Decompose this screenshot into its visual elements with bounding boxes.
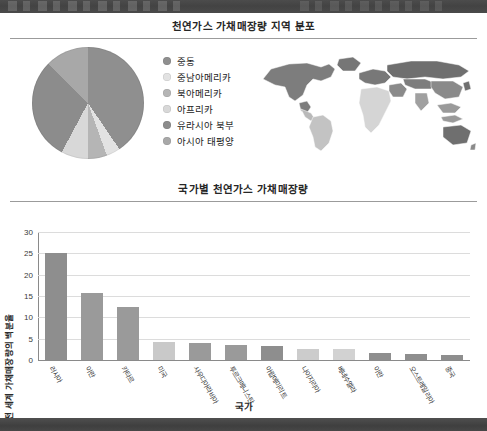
- legend-item-africa: 아프리카: [163, 101, 234, 117]
- x-tick-label: 아랍에미리트: [263, 364, 289, 400]
- bar-chart: 전 세계 가채매장량의 백분율 30 25 20 15 10: [0, 202, 487, 417]
- legend-swatch-icon: [163, 89, 171, 97]
- legend-label: 중동: [177, 54, 195, 68]
- y-tick-label: 10: [24, 313, 33, 322]
- legend-label: 아프리카: [177, 102, 213, 116]
- pie-chart: [32, 47, 144, 159]
- y-tick-label: 30: [24, 228, 33, 237]
- x-tick-label: 이란: [371, 364, 386, 379]
- legend-swatch-icon: [163, 57, 171, 65]
- bar: [261, 346, 283, 361]
- bar-slot: [290, 232, 326, 360]
- bar-slot: [146, 232, 182, 360]
- y-tick-label: 5: [29, 334, 33, 343]
- world-map-icon: [255, 51, 477, 155]
- page-footer-band: [0, 418, 487, 431]
- page-root: 천연가스 가채매장량 지역 분포 중동 중남아메리카 북아메리카: [0, 0, 487, 431]
- x-tick-label: 카타르: [119, 364, 137, 384]
- bar-slot: [326, 232, 362, 360]
- legend-item-northern-eurasia: 유라시아 북부: [163, 117, 234, 133]
- bar: [45, 253, 67, 360]
- figure-regional-distribution: 천연가스 가채매장량 지역 분포 중동 중남아메리카 북아메리카: [0, 13, 487, 176]
- bar: [333, 349, 355, 360]
- page-header-band: [0, 0, 487, 13]
- bar-slot: [434, 232, 470, 360]
- y-tick-label: 20: [24, 270, 33, 279]
- bar-series: [38, 232, 470, 360]
- bar: [369, 353, 391, 360]
- bar-slot: [38, 232, 74, 360]
- x-tick-label: 베네수엘라: [335, 364, 358, 395]
- legend-label: 유라시아 북부: [177, 118, 234, 132]
- y-tick-label: 0: [29, 356, 33, 365]
- bar: [441, 355, 463, 360]
- bar: [297, 349, 319, 360]
- pie-legend: 중동 중남아메리카 북아메리카 아프리카 유라시아 북부: [163, 53, 234, 149]
- bar-slot: [362, 232, 398, 360]
- x-tick-label: 이란: [83, 364, 98, 379]
- pie-slices: [32, 47, 144, 159]
- y-tick-label: 25: [24, 249, 33, 258]
- bar: [117, 307, 139, 360]
- bar-slot: [398, 232, 434, 360]
- x-tick-label: 러시아: [47, 364, 65, 384]
- bar: [225, 345, 247, 360]
- legend-label: 북아메리카: [177, 86, 222, 100]
- legend-item-central-south-america: 중남아메리카: [163, 69, 234, 85]
- bar-slot: [182, 232, 218, 360]
- header-ghost-text-right: [300, 1, 450, 11]
- legend-label: 중남아메리카: [177, 70, 231, 84]
- bar-slot: [110, 232, 146, 360]
- legend-swatch-icon: [163, 137, 171, 145]
- header-ghost-text-left: [8, 1, 188, 11]
- bar-slot: [74, 232, 110, 360]
- figure-bar-title: 국가별 천연가스 가채매장량: [0, 176, 487, 196]
- plot-area: 30 25 20 15 10 5 0: [38, 232, 470, 360]
- x-tick-label: 나이지리아: [299, 364, 322, 395]
- bar-slot: [218, 232, 254, 360]
- legend-item-asia-pacific: 아시아 태평양: [163, 133, 234, 149]
- bar: [153, 342, 175, 360]
- legend-swatch-icon: [163, 105, 171, 113]
- bar: [405, 354, 427, 360]
- legend-swatch-icon: [163, 73, 171, 81]
- legend-label: 아시아 태평양: [177, 134, 234, 148]
- gridline-0: 0: [38, 360, 470, 361]
- figure-pie-title: 천연가스 가채매장량 지역 분포: [0, 13, 487, 33]
- legend-item-north-america: 북아메리카: [163, 85, 234, 101]
- figure-country-reserves: 국가별 천연가스 가채매장량 전 세계 가채매장량의 백분율 30 25 20 …: [0, 176, 487, 418]
- bar: [189, 343, 211, 360]
- x-tick-label: 미국: [155, 364, 170, 379]
- legend-item-middle-east: 중동: [163, 53, 234, 69]
- y-tick-label: 15: [24, 292, 33, 301]
- x-tick-label: 중국: [443, 364, 458, 379]
- bar-slot: [254, 232, 290, 360]
- bar: [81, 293, 103, 360]
- x-axis-title: 국가: [0, 399, 487, 413]
- legend-swatch-icon: [163, 121, 171, 129]
- figure-pie-body: 중동 중남아메리카 북아메리카 아프리카 유라시아 북부: [0, 39, 487, 167]
